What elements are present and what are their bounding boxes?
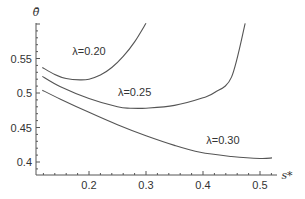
x-tick-label: 0.2 [81, 179, 96, 191]
y-tick-label: 0.55 [11, 53, 32, 65]
y-axis-title: θ̄ [33, 6, 40, 19]
line-chart: 0.40.450.50.55 0.20.30.40.5 λ=0.20λ=0.25… [0, 0, 305, 199]
x-axis-title: s* [281, 169, 293, 182]
plot-curves: λ=0.20λ=0.25λ=0.30 [42, 23, 272, 158]
y-tick-label: 0.45 [11, 122, 32, 134]
curve-lambda-2 [42, 90, 272, 158]
x-tick-label: 0.4 [195, 179, 210, 191]
x-axis: 0.20.30.40.5 [36, 171, 277, 191]
x-tick-label: 0.5 [252, 179, 267, 191]
y-tick-label: 0.5 [17, 87, 32, 99]
curve-label: λ=0.20 [72, 45, 105, 57]
y-axis: 0.40.450.50.55 [11, 23, 40, 175]
curve-label: λ=0.25 [118, 86, 151, 98]
y-tick-label: 0.4 [17, 156, 32, 168]
curve-label: λ=0.30 [206, 134, 239, 146]
x-tick-label: 0.3 [138, 179, 153, 191]
